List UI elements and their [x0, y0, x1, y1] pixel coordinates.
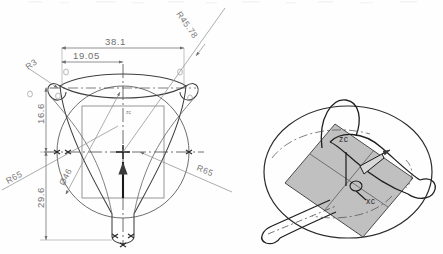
- lobe-right: [180, 84, 198, 100]
- leader-arrow-r45-78: [196, 44, 205, 56]
- leader-r45-78: [123, 8, 225, 152]
- dim-label-r45-78: R45.78: [174, 9, 200, 40]
- tangent-marks: [28, 69, 193, 101]
- dimension-19-05: 19.05: [62, 50, 123, 62]
- iso-tube-centerline: [268, 206, 336, 234]
- dim-label-38-1: 38.1: [105, 36, 126, 47]
- leader-r3: [28, 68, 58, 88]
- dim-label-r3: R3: [24, 57, 40, 72]
- iso-limb-tube-cap: [262, 226, 280, 244]
- iso-view-group: zc xc: [262, 100, 435, 244]
- lobe-left: [48, 84, 66, 100]
- iso-limb-tube-top: [272, 200, 330, 226]
- dimension-r45-78: R45.78: [123, 8, 225, 152]
- dimension-r65-right: R65: [140, 152, 232, 192]
- dim-label-19-05: 19.05: [73, 50, 100, 61]
- front-view-group: zc 38.1 19.05 16.6: [2, 8, 232, 247]
- dim-label-r65-right: R65: [195, 163, 215, 179]
- technical-drawing-canvas: zc 38.1 19.05 16.6: [0, 0, 443, 254]
- iso-zc-label: zc: [339, 134, 349, 144]
- zc-axis-label: zc: [126, 109, 132, 115]
- drawing-sheet: zc 38.1 19.05 16.6: [0, 0, 443, 254]
- iso-limb-tube-bottom: [280, 212, 336, 238]
- dimension-16-6: 16.6: [35, 88, 58, 152]
- dim-label-16-6: 16.6: [35, 103, 46, 124]
- profile-curve-left: [60, 86, 112, 236]
- dim-label-29-6: 29.6: [35, 187, 46, 208]
- leader-r65-right: [140, 152, 232, 192]
- iso-xc-label: xc: [366, 196, 376, 206]
- dimension-d46: Ø46: [57, 92, 120, 194]
